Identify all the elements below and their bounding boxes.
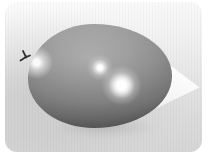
photo-page: [0, 0, 211, 163]
balloon-photo: [5, 2, 202, 152]
balloon-knot: [19, 50, 32, 64]
balloon: [28, 24, 172, 128]
